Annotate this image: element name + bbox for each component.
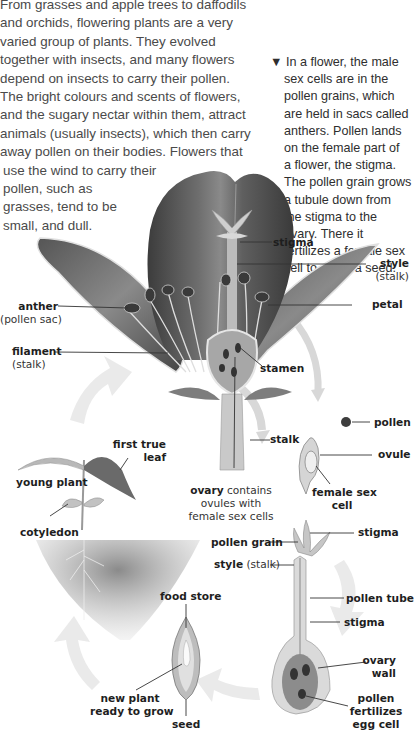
label-pollen-grain: pollen grain	[211, 536, 283, 549]
arrow-to-pollen	[292, 318, 318, 392]
label-ovary-wall: ovarywall	[350, 654, 396, 680]
label-new-plant: new plantready to grow	[90, 692, 170, 718]
label-food-store: food store	[160, 590, 222, 603]
label-female-sex-cell: female sexcell	[312, 486, 372, 512]
label-first-true-leaf: first trueleaf	[110, 438, 166, 464]
label-style-top: style(stalk)	[360, 257, 409, 283]
label-young-plant: young plant	[16, 476, 88, 489]
label-stigma-top: stigma	[273, 236, 314, 249]
label-ovary: ovary containsovules withfemale sex cell…	[166, 484, 296, 523]
carpel-cross-section	[272, 520, 330, 714]
label-cotyledon: cotyledon	[20, 526, 79, 539]
label-stamen: stamen	[260, 362, 304, 375]
label-seed: seed	[172, 718, 200, 731]
label-anther: anther(pollen sac)	[0, 300, 58, 326]
label-petal: petal	[372, 298, 403, 311]
label-pollen-fertilizes: pollenfertilizesegg cell	[344, 692, 408, 731]
label-ovule: ovule	[378, 448, 411, 461]
label-stalk: stalk	[270, 433, 299, 446]
label-pollen: pollen	[374, 416, 411, 429]
label-style-bottom: style (stalk)	[214, 558, 280, 571]
label-stigma-lower: stigma	[344, 616, 385, 629]
label-pollen-tube: pollen tube	[346, 592, 414, 605]
pollen-dot	[341, 417, 351, 427]
label-filament: filament(stalk)	[12, 345, 61, 371]
label-stigma-right: stigma	[358, 526, 399, 539]
seed	[172, 617, 200, 700]
